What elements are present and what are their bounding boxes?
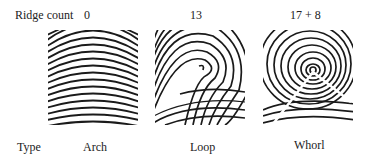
type-label: Type xyxy=(17,140,41,154)
ridge-count-label: Ridge count xyxy=(15,8,73,22)
arch-type-label: Arch xyxy=(83,140,107,154)
whorl-ridge-count: 17 + 8 xyxy=(290,8,321,22)
loop-type-label: Loop xyxy=(190,140,215,154)
whorl-type-label: Whorl xyxy=(294,138,325,152)
arch-fingerprint-icon xyxy=(48,30,138,125)
loop-ridge-count: 13 xyxy=(190,8,202,22)
arch-ridge-count: 0 xyxy=(84,8,90,22)
whorl-fingerprint-icon xyxy=(263,30,353,125)
loop-fingerprint-icon xyxy=(155,30,245,125)
